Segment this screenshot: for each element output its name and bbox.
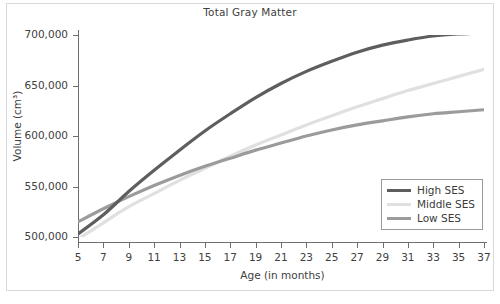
x-tick <box>78 243 79 248</box>
legend-label-middle-ses: Middle SES <box>417 199 475 210</box>
x-tick-label: 7 <box>100 251 107 263</box>
x-tick-label: 15 <box>198 251 211 263</box>
x-tick-label: 37 <box>477 251 490 263</box>
x-tick-label: 35 <box>452 251 465 263</box>
page-title: Total Gray Matter <box>0 6 500 18</box>
x-tick <box>433 243 434 248</box>
legend-label-high-ses: High SES <box>417 185 464 196</box>
x-tick-label: 11 <box>147 251 160 263</box>
x-tick <box>306 243 307 248</box>
chart-figure: Total Gray Matter 500,000550,000600,0006… <box>0 0 500 304</box>
x-tick-label: 33 <box>427 251 440 263</box>
legend-swatch-middle-ses <box>387 203 411 206</box>
y-tick-label: 650,000 <box>25 79 68 91</box>
x-tick-label: 17 <box>224 251 237 263</box>
y-axis-title: Volume (cm³) <box>11 66 23 186</box>
y-tick-label: 550,000 <box>25 180 68 192</box>
x-tick-label: 9 <box>125 251 132 263</box>
x-tick <box>256 243 257 248</box>
legend-item-high-ses[interactable]: High SES <box>387 183 477 197</box>
x-tick <box>484 243 485 248</box>
x-tick-label: 29 <box>376 251 389 263</box>
x-tick <box>357 243 358 248</box>
y-tick-label: 700,000 <box>25 28 68 40</box>
x-tick <box>459 243 460 248</box>
legend-item-low-ses[interactable]: Low SES <box>387 211 477 225</box>
x-axis-title: Age (in months) <box>78 269 487 281</box>
x-tick <box>180 243 181 248</box>
y-tick-label: 500,000 <box>25 230 68 242</box>
x-tick <box>230 243 231 248</box>
x-tick-label: 31 <box>401 251 414 263</box>
x-tick <box>408 243 409 248</box>
y-tick-label: 600,000 <box>25 129 68 141</box>
x-tick-label: 5 <box>75 251 82 263</box>
x-tick <box>129 243 130 248</box>
x-tick <box>332 243 333 248</box>
x-tick <box>154 243 155 248</box>
x-tick <box>103 243 104 248</box>
x-tick-label: 23 <box>300 251 313 263</box>
x-tick-label: 21 <box>274 251 287 263</box>
x-tick-label: 19 <box>249 251 262 263</box>
x-tick <box>383 243 384 248</box>
x-tick <box>281 243 282 248</box>
x-axis-line <box>78 242 487 243</box>
x-tick-label: 13 <box>173 251 186 263</box>
legend-swatch-low-ses <box>387 217 411 220</box>
x-tick-label: 27 <box>350 251 363 263</box>
x-tick-label: 25 <box>325 251 338 263</box>
y-tick <box>73 237 78 238</box>
legend-item-middle-ses[interactable]: Middle SES <box>387 197 477 211</box>
legend-label-low-ses: Low SES <box>417 213 461 224</box>
x-tick <box>205 243 206 248</box>
legend-swatch-high-ses <box>387 189 411 192</box>
legend: High SES Middle SES Low SES <box>381 179 483 230</box>
